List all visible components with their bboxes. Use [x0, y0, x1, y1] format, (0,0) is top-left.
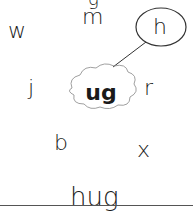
letter-r: r: [144, 77, 153, 99]
center-chunk: ug: [70, 70, 132, 114]
letter-w: w: [8, 20, 26, 42]
letter-b: b: [54, 132, 68, 154]
connector-line: [113, 42, 146, 67]
answer-word: hug: [70, 182, 119, 212]
letter-h-circled: h: [153, 16, 167, 38]
letter-x: x: [137, 139, 150, 161]
letter-m: m: [82, 6, 103, 28]
letter-j: j: [28, 77, 34, 99]
writing-line: [0, 205, 193, 206]
